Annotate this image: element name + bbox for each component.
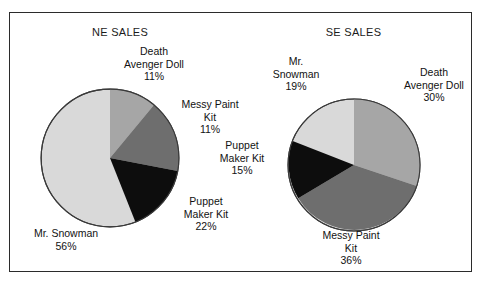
pie-label-se-messy-line1: Messy Paint [322,229,379,241]
pie-label-se-messy-line2: Kit [345,242,357,254]
pie-label-ne-snow-line1: Mr. Snowman [34,227,98,239]
pie-label-ne-death-avenger-doll: Death Avenger Doll 11% [106,45,202,83]
pie-chart-se-sales [286,97,422,233]
pie-label-se-death-percent: 30% [392,91,476,104]
pie-svg-se [286,97,422,233]
pie-label-ne-puppet-percent: 22% [168,220,244,233]
pie-label-se-messy-percent: 36% [304,254,398,267]
pie-label-ne-puppet-maker-kit: Puppet Maker Kit 22% [168,195,244,233]
pie-label-se-snow-percent: 19% [258,80,334,93]
pie-label-ne-messy-line1: Messy Paint [181,98,238,110]
pie-label-ne-death-line2: Avenger Doll [124,58,184,70]
pie-label-ne-messy-line2: Kit [204,111,216,123]
pie-chart-ne-sales [39,87,181,229]
pie-label-ne-snow-percent: 56% [14,240,118,253]
pie-label-se-puppet-line1: Puppet [225,139,258,151]
pie-label-ne-death-percent: 11% [106,70,202,83]
pie-label-se-snow-line2: Snowman [273,68,320,80]
pie-label-se-death-line2: Avenger Doll [404,79,464,91]
pie-label-ne-death-line1: Death [140,45,168,57]
chart-panel-se-sales: SE SALES Mr. Snowman 19% Death Avenger D… [242,13,473,271]
pie-label-se-puppet-maker-kit: Puppet Maker Kit 15% [200,139,284,177]
pie-label-se-mr-snowman: Mr. Snowman 19% [258,55,334,93]
pie-label-se-death-avenger-doll: Death Avenger Doll 30% [392,66,476,104]
pie-label-se-death-line1: Death [420,66,448,78]
pie-label-se-snow-line1: Mr. [289,55,304,67]
pie-svg-ne [39,87,181,229]
pie-label-se-puppet-line2: Maker Kit [220,152,264,164]
pie-label-ne-puppet-line1: Puppet [189,195,222,207]
pie-label-ne-messy-paint-kit: Messy Paint Kit 11% [170,98,250,136]
pie-label-se-messy-paint-kit: Messy Paint Kit 36% [304,229,398,267]
pie-label-ne-messy-percent: 11% [170,123,250,136]
pie-label-se-puppet-percent: 15% [200,164,284,177]
pie-label-ne-puppet-line2: Maker Kit [184,208,228,220]
chart-title-ne-sales: NE SALES [4,26,236,38]
pie-label-ne-mr-snowman: Mr. Snowman 56% [14,227,118,252]
chart-title-se-sales: SE SALES [238,26,469,38]
chart-frame: NE SALES Death Avenger Doll 11% Messy Pa… [9,12,472,272]
